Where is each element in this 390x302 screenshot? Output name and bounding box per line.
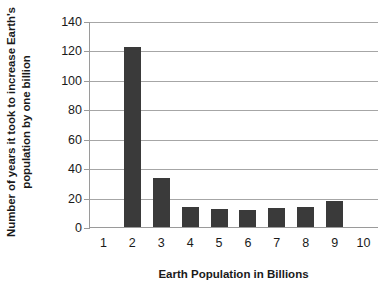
y-axis-tick-label: 80 bbox=[48, 104, 82, 116]
x-axis-tick-label: 3 bbox=[147, 236, 176, 250]
bar bbox=[297, 207, 314, 228]
y-axis-line bbox=[89, 22, 90, 229]
x-axis-tick-label: 9 bbox=[320, 236, 349, 250]
x-axis-line bbox=[89, 227, 378, 228]
y-axis-tick-label: 0 bbox=[48, 222, 82, 234]
y-axis-title: Number of years it took to increase Eart… bbox=[2, 7, 36, 237]
y-axis-tick-label: 120 bbox=[48, 45, 82, 57]
y-axis-tick-labels: 020406080100120140 bbox=[46, 22, 82, 228]
x-axis-tick-label: 7 bbox=[262, 236, 291, 250]
x-axis-tick-label: 10 bbox=[349, 236, 378, 250]
y-axis-tick-label: 20 bbox=[48, 193, 82, 205]
y-axis-tick-label: 60 bbox=[48, 134, 82, 146]
x-axis-tick-label: 4 bbox=[176, 236, 205, 250]
bar-chart-figure: Number of years it took to increase Eart… bbox=[0, 0, 390, 302]
bar bbox=[239, 210, 256, 228]
bar bbox=[268, 208, 285, 228]
y-axis-tick-label: 40 bbox=[48, 163, 82, 175]
bar bbox=[182, 207, 199, 228]
plot-area bbox=[89, 22, 378, 228]
x-axis-tick-label: 1 bbox=[89, 236, 118, 250]
bar bbox=[211, 209, 228, 228]
bars-group bbox=[89, 22, 378, 228]
bar bbox=[124, 47, 141, 228]
x-axis-title: Earth Population in Billions bbox=[89, 268, 378, 280]
x-axis-tick-label: 2 bbox=[118, 236, 147, 250]
y-axis-tick-label: 140 bbox=[48, 16, 82, 28]
bar bbox=[153, 178, 170, 228]
y-axis-title-line-2: population by one billion bbox=[19, 55, 34, 189]
bar bbox=[326, 201, 343, 228]
x-axis-tick-label: 5 bbox=[205, 236, 234, 250]
y-axis-title-line-1: Number of years it took to increase Eart… bbox=[4, 7, 19, 237]
x-axis-tick-label: 8 bbox=[291, 236, 320, 250]
y-axis-tick-label: 100 bbox=[48, 75, 82, 87]
x-axis-tick-labels: 12345678910 bbox=[89, 236, 378, 254]
x-axis-tick-label: 6 bbox=[234, 236, 263, 250]
